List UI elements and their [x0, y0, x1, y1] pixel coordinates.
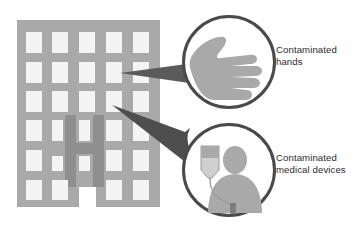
contaminated-hands-label-line1: Contaminated [276, 44, 337, 56]
contaminated-medical-devices-node[interactable] [184, 125, 275, 216]
iv-port-icon [230, 203, 236, 214]
contaminated-devices-label-line1: Contaminated [276, 152, 346, 164]
transmission-diagram: Contaminated hands Contaminated medical … [0, 0, 360, 233]
contaminated-medical-devices-label: Contaminated medical devices [276, 152, 346, 177]
contaminated-hands-node[interactable] [184, 17, 275, 108]
contaminated-devices-label-line2: medical devices [276, 164, 346, 176]
iv-bag-icon [201, 146, 219, 178]
contaminated-hands-label: Contaminated hands [276, 44, 337, 69]
diagram-canvas [0, 0, 360, 233]
contaminated-hands-label-line2: hands [276, 56, 337, 68]
hospital-building [17, 20, 160, 207]
iv-bag-fluid [202, 147, 219, 159]
